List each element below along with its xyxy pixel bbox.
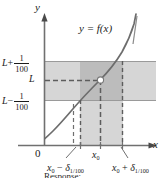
open-point-x0-L [97,77,103,83]
x-tick-subscript: 0 [116,167,119,174]
fraction-numerator: 1 [14,92,29,101]
curve-label: y = f(x) [79,23,112,34]
y-tick-label-L-plus-epsilon: L+1100 [2,54,29,73]
x-tick-label-x0: x0 [92,150,100,161]
y-tick-label-L-minus-epsilon: L−1100 [2,92,29,111]
y-axis-label: y [35,2,40,13]
delta-subscript: 1/100 [135,167,149,174]
y-tick-op-L-plus: + [8,57,14,68]
y-axis-arrow [41,13,47,22]
fraction-denominator: 100 [14,65,29,74]
x-tick-op: + [122,162,128,173]
fraction-one-hundredth-lower: 1100 [14,92,29,111]
origin-label: 0 [35,148,41,159]
x-tick-label-x0-plus-delta: x0 + δ1/100 [112,163,149,174]
figure-caption: Response: [44,172,81,178]
fraction-numerator: 1 [14,54,29,63]
fraction-denominator: 100 [14,103,29,112]
y-tick-op-L-minus: − [8,95,14,106]
x-tick-subscript-x0: 0 [96,154,99,161]
limit-definition-figure: y x y = f(x) 0 L+1100 L L−1100 x0 x0 − δ… [0,0,163,178]
delta-strip-light-lower [80,100,123,145]
fraction-one-hundredth-upper: 1100 [14,54,29,73]
tick-leader-left [66,147,76,158]
y-tick-label-L: L [29,74,35,84]
x-axis-label: x [153,139,158,150]
